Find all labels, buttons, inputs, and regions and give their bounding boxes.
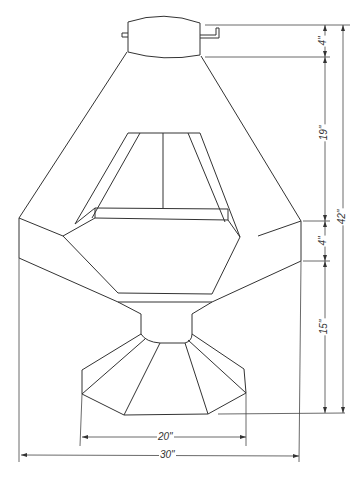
dimension-lines: [21, 25, 345, 458]
dim-base-width: 20": [157, 432, 174, 442]
band: [19, 218, 301, 302]
dim-overall-height: 42": [337, 209, 347, 226]
dim-hood-height: 19": [319, 125, 329, 142]
firebox-base: [82, 302, 246, 415]
dim-band-height: 4": [318, 235, 328, 246]
flue-collar: [122, 16, 219, 58]
dim-collar-height: 4": [318, 35, 328, 46]
dim-overall-width: 30": [159, 450, 176, 460]
hood: [19, 52, 301, 237]
fireplace-drawing: [0, 0, 363, 482]
extension-lines: [19, 25, 350, 462]
dim-firebox-height: 15": [319, 319, 329, 336]
